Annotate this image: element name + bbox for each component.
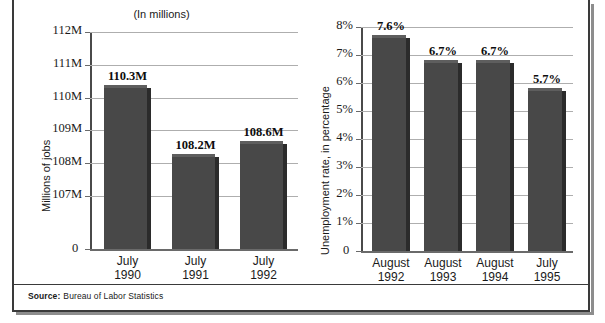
- bar-top-face: [104, 85, 147, 88]
- y-axis-tick: [85, 249, 90, 250]
- bar-value-label: 6.7%: [464, 44, 526, 59]
- y-axis-tick-label: 110M: [36, 89, 82, 104]
- bar-value-label: 108.6M: [228, 125, 299, 140]
- figure-container: (In millions) Millions of jobs 112M111M1…: [0, 0, 605, 323]
- bar-top-face: [476, 60, 510, 63]
- y-axis-tick-label: 6%: [327, 74, 353, 89]
- y-axis-tick-label: 108M: [36, 154, 82, 169]
- bar: [104, 88, 151, 249]
- figure-frame-shadow-right: [591, 4, 594, 315]
- y-axis-tick-label: 109M: [36, 121, 82, 136]
- source-value: Bureau of Labor Statistics: [63, 291, 163, 301]
- chart-title-jobs: (In millions): [14, 8, 309, 20]
- x-axis-line-jobs: [90, 249, 298, 251]
- y-axis-tick-label: 5%: [327, 102, 353, 117]
- y-axis-tick: [356, 55, 361, 56]
- gridline: [90, 65, 298, 66]
- y-axis-tick: [356, 251, 361, 252]
- bar: [528, 91, 566, 251]
- y-axis-tick-label: 4%: [327, 130, 353, 145]
- bar-top-face: [172, 154, 215, 157]
- y-axis-tick-label: 107M: [36, 187, 82, 202]
- y-axis-tick-label: 3%: [327, 158, 353, 173]
- y-axis-tick-label: 112M: [36, 23, 82, 38]
- y-axis-tick: [356, 139, 361, 140]
- bar: [372, 38, 410, 251]
- figure-frame-shadow: [16, 312, 594, 315]
- y-axis-tick: [356, 167, 361, 168]
- bar-value-label: 7.6%: [360, 19, 422, 34]
- x-axis-line-unemployment: [361, 251, 573, 253]
- y-axis-tick: [356, 195, 361, 196]
- y-axis-tick-label: 7%: [327, 46, 353, 61]
- y-axis-tick: [85, 98, 90, 99]
- y-axis-tick: [85, 32, 90, 33]
- plot-area-unemployment: [361, 27, 573, 253]
- bar-value-label: 108.2M: [160, 138, 231, 153]
- bar-top-face: [372, 35, 406, 38]
- y-axis-tick: [85, 65, 90, 66]
- source-note: Source:Bureau of Labor Statistics: [28, 291, 163, 301]
- y-axis-tick-label: 2%: [327, 186, 353, 201]
- y-axis-tick-label: 8%: [327, 18, 353, 33]
- chart-panel-unemployment: Unemployment rate, in percentage 8%7%6%5…: [309, 0, 588, 284]
- source-divider: [14, 284, 588, 285]
- y-axis-tick-label: 111M: [36, 56, 82, 71]
- source-label: Source:: [28, 291, 60, 301]
- y-axis-tick: [85, 130, 90, 131]
- bar-value-label: 5.7%: [516, 72, 578, 87]
- y-axis-tick: [85, 163, 90, 164]
- bar-top-face: [424, 60, 458, 63]
- bar-top-face: [240, 141, 283, 144]
- bar: [424, 63, 462, 251]
- bar-value-label: 110.3M: [92, 69, 163, 84]
- y-axis-tick-label: 0: [72, 241, 78, 256]
- y-axis-tick-label: 0: [343, 243, 349, 258]
- bar: [240, 144, 287, 249]
- x-axis-tick-label: July1995: [506, 257, 588, 284]
- gridline: [90, 32, 298, 33]
- y-axis-tick: [85, 196, 90, 197]
- y-axis-tick: [356, 223, 361, 224]
- y-axis-tick: [356, 83, 361, 84]
- y-axis-tick-label: 1%: [327, 214, 353, 229]
- x-axis-tick-label: July1992: [218, 255, 309, 282]
- y-axis-line-unemployment: [361, 27, 363, 253]
- bar-top-face: [528, 88, 562, 91]
- chart-panel-jobs: (In millions) Millions of jobs 112M111M1…: [14, 0, 309, 284]
- bar: [476, 63, 514, 251]
- y-axis-tick: [356, 111, 361, 112]
- bar: [172, 157, 219, 249]
